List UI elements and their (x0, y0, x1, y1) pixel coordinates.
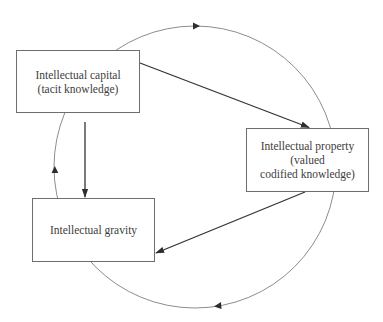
cycle-arrowhead-top-icon (193, 23, 200, 30)
node-intellectual-capital: Intellectual capital (tacit knowledge) (16, 50, 140, 113)
cycle-arrowhead-bottom-icon (214, 302, 222, 309)
node-intellectual-gravity-label: Intellectual gravity (50, 223, 137, 237)
cycle-arrowhead-left-icon (52, 166, 59, 173)
node-intellectual-gravity: Intellectual gravity (32, 198, 155, 262)
arrow-capital-to-property (140, 63, 309, 128)
node-intellectual-capital-label: Intellectual capital (tacit knowledge) (35, 68, 120, 96)
node-intellectual-property-label: Intellectual property (valued codified k… (260, 139, 355, 181)
arrow-property-to-gravity (156, 192, 305, 253)
node-intellectual-property: Intellectual property (valued codified k… (246, 128, 369, 192)
diagram-canvas: Intellectual capital (tacit knowledge) I… (0, 0, 383, 322)
